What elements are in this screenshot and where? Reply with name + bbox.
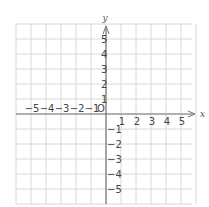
y-tick-label: 2: [101, 79, 107, 90]
y-axis-label: y: [101, 13, 108, 23]
y-tick-label: 5: [101, 34, 107, 45]
x-tick-label: 5: [179, 116, 185, 127]
y-tick-label: 3: [101, 64, 107, 75]
x-tick-label: 2: [134, 116, 140, 127]
y-tick-label: 4: [101, 49, 107, 60]
x-tick-label: 4: [164, 116, 170, 127]
origin-label: O: [97, 103, 105, 114]
y-tick-label: −3: [107, 154, 122, 165]
x-tick-label: −4: [40, 103, 55, 114]
coordinate-plane: −5−4−3−2−11234554321−1−2−3−4−5Oxy: [0, 0, 209, 207]
x-tick-label: −3: [55, 103, 70, 114]
y-tick-label: −1: [107, 124, 122, 135]
y-tick-label: −4: [107, 169, 122, 180]
x-tick-label: −2: [70, 103, 85, 114]
x-tick-label: −5: [25, 103, 40, 114]
tick-labels: −5−4−3−2−11234554321−1−2−3−4−5Oxy: [25, 13, 205, 195]
x-axis-label: x: [200, 109, 205, 119]
y-tick-label: −5: [107, 184, 122, 195]
x-tick-label: 3: [149, 116, 155, 127]
y-tick-label: −2: [107, 139, 122, 150]
